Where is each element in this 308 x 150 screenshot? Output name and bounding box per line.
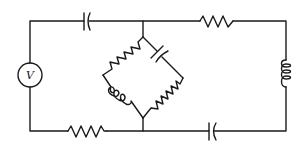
inductor-l2: [103, 75, 143, 118]
resistor-r3: [103, 37, 143, 75]
resistor-r2: [68, 126, 107, 137]
outer-wires: [30, 21, 286, 131]
inductor-l1: [282, 60, 291, 87]
resistor-r4: [143, 78, 183, 118]
capacitor-c3: [143, 37, 183, 78]
voltage-source-label: V: [26, 69, 35, 82]
circuit-diagram: V: [0, 0, 308, 150]
resistor-r1: [200, 16, 233, 27]
voltage-source: V: [18, 63, 42, 87]
bridge-network: [103, 21, 183, 131]
